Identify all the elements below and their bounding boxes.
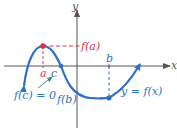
local-min-point — [107, 96, 112, 101]
curve-label: y = f(x) — [120, 85, 162, 98]
y-axis-label: y — [71, 0, 79, 13]
x-axis-label: x — [171, 59, 177, 72]
function-graph: x y f(a) a c b f(b) f(c) = 0 y = f(x) — [0, 0, 177, 134]
local-max-point — [40, 43, 46, 49]
fb-label: f(b) — [56, 93, 77, 106]
fa-label: f(a) — [80, 40, 100, 53]
c-label: c — [51, 67, 57, 80]
fc-label: f(c) = 0 — [13, 89, 56, 102]
a-label: a — [40, 67, 47, 80]
b-label: b — [106, 52, 113, 65]
zero-point-c — [59, 64, 64, 69]
